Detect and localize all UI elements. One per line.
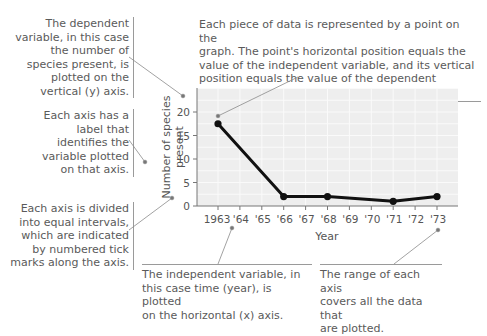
x-tick-label: '64 bbox=[233, 213, 250, 225]
note-line: are plotted. bbox=[320, 322, 442, 336]
x-axis-title: Year bbox=[314, 230, 339, 243]
data-point bbox=[280, 193, 287, 200]
x-tick-label: '65 bbox=[255, 213, 271, 225]
data-point bbox=[214, 120, 221, 127]
x-tick-label: '70 bbox=[364, 213, 380, 225]
x-tick-label: '67 bbox=[298, 213, 314, 225]
x-ticks: 1963'64'65'66'67'68'69'70'71'72'73 bbox=[204, 206, 446, 225]
x-tick-label: '72 bbox=[408, 213, 424, 225]
data-point bbox=[433, 193, 440, 200]
x-tick-label: 1963 bbox=[204, 213, 231, 225]
y-axis-title-line2: present bbox=[173, 125, 186, 168]
data-point bbox=[324, 193, 331, 200]
x-tick-label: '71 bbox=[386, 213, 402, 225]
y-tick-label: 20 bbox=[177, 106, 190, 118]
y-tick-label: 5 bbox=[183, 177, 190, 189]
x-tick-label: '66 bbox=[277, 213, 294, 225]
y-tick-label: 0 bbox=[183, 200, 190, 212]
data-point bbox=[390, 198, 397, 205]
x-tick-label: '68 bbox=[320, 213, 336, 225]
y-axis-title: Number of species bbox=[160, 95, 173, 198]
x-tick-label: '69 bbox=[342, 213, 358, 225]
x-tick-label: '73 bbox=[430, 213, 446, 225]
